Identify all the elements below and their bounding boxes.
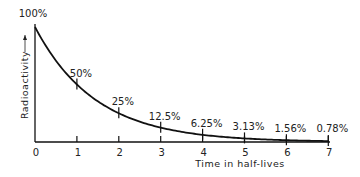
y-axis-label: Radioactivity (19, 51, 30, 119)
decay-chart: 100%50%25%12.5%6.25%3.13%1.56%0.78% 0123… (0, 0, 360, 177)
point-label: 12.5% (149, 111, 181, 122)
x-tick-label: 4 (200, 147, 206, 158)
x-tick-label: 7 (326, 147, 332, 158)
y-axis-label-group: Radioactivity (19, 35, 30, 119)
point-label: 3.13% (233, 121, 265, 132)
point-label: 25% (112, 96, 134, 107)
arrow-up-icon (23, 35, 27, 40)
x-tick-labels: 01234567 (33, 147, 333, 158)
point-label: 100% (19, 8, 48, 19)
x-tick-label: 6 (284, 147, 290, 158)
x-tick-label: 1 (75, 147, 81, 158)
x-axis-ticks (77, 79, 328, 147)
x-tick-label: 3 (159, 147, 165, 158)
point-label: 6.25% (191, 118, 223, 129)
point-label: 50% (70, 68, 92, 79)
x-tick-label: 5 (242, 147, 248, 158)
x-axis-label: Time in half-lives (194, 158, 284, 169)
point-labels: 100%50%25%12.5%6.25%3.13%1.56%0.78% (19, 8, 348, 134)
point-label: 1.56% (275, 123, 307, 134)
x-tick-label: 2 (117, 147, 123, 158)
x-tick-label: 0 (33, 147, 39, 158)
point-label: 0.78% (316, 123, 348, 134)
